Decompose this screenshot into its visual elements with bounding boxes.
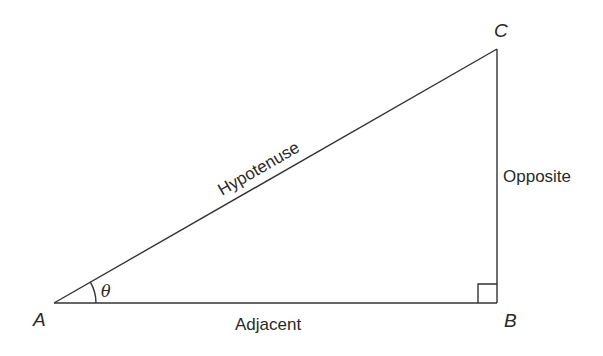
hypotenuse-line xyxy=(54,49,497,303)
vertex-c-label: C xyxy=(494,20,508,41)
right-triangle-diagram: θ A B C Hypotenuse Opposite Adjacent xyxy=(0,0,603,356)
right-angle-marker xyxy=(478,284,497,303)
vertex-b-label: B xyxy=(504,310,517,331)
adjacent-label: Adjacent xyxy=(235,315,301,334)
angle-arc xyxy=(90,282,96,303)
vertex-a-label: A xyxy=(32,309,46,330)
opposite-label: Opposite xyxy=(503,167,571,186)
theta-label: θ xyxy=(101,282,111,301)
